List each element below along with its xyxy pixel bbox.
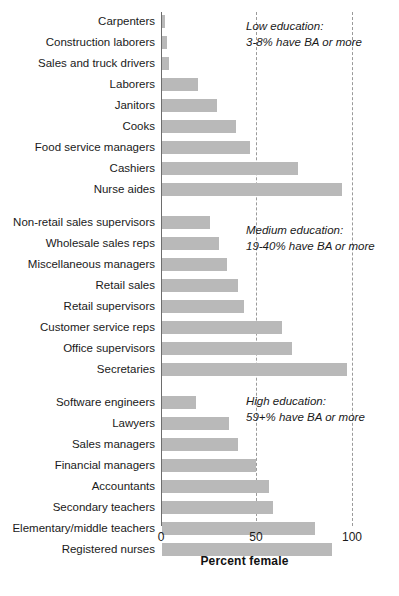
bar — [162, 141, 250, 154]
bar-track — [162, 363, 353, 376]
bar — [162, 321, 282, 334]
bar — [162, 417, 229, 430]
annotation-low-education: Low education: 3-8% have BA or more — [246, 18, 362, 50]
bar-row-label: Construction laborers — [0, 35, 155, 50]
bar-row-label: Retail supervisors — [0, 299, 155, 314]
bar-row-label: Lawyers — [0, 416, 155, 431]
bar-track — [162, 300, 353, 313]
bar-row-label: Miscellaneous managers — [0, 257, 155, 272]
bar — [162, 459, 256, 472]
bar-track — [162, 438, 353, 451]
bar — [162, 300, 244, 313]
bar-track — [162, 258, 353, 271]
bar-row: Retail supervisors — [0, 297, 399, 316]
bar-row: Cashiers — [0, 159, 399, 178]
bar-track — [162, 342, 353, 355]
bar — [162, 162, 298, 175]
x-axis: 0 50 100 Percent female — [0, 526, 399, 566]
bar-row: Sales managers — [0, 435, 399, 454]
bar — [162, 258, 227, 271]
bar — [162, 237, 219, 250]
bar — [162, 183, 342, 196]
bar-row-label: Nurse aides — [0, 182, 155, 197]
annotation-medium-line2: 19-40% have BA or more — [246, 238, 375, 254]
bar-track — [162, 321, 353, 334]
bar — [162, 36, 167, 49]
bar-row: Cooks — [0, 117, 399, 136]
bar-track — [162, 459, 353, 472]
bar — [162, 342, 292, 355]
annotation-medium-education: Medium education: 19-40% have BA or more — [246, 222, 375, 254]
bar-row-label: Customer service reps — [0, 320, 155, 335]
x-tick-0: 0 — [158, 530, 165, 544]
bar-row-label: Food service managers — [0, 140, 155, 155]
bar-row-label: Office supervisors — [0, 341, 155, 356]
bar-row-label: Janitors — [0, 98, 155, 113]
x-axis-title: Percent female — [0, 554, 399, 568]
bar-row-label: Laborers — [0, 77, 155, 92]
bar-track — [162, 183, 353, 196]
bar-row-label: Carpenters — [0, 14, 155, 29]
bar-row: Secretaries — [0, 360, 399, 379]
bar-track — [162, 480, 353, 493]
bar-row-label: Cashiers — [0, 161, 155, 176]
annotation-medium-line1: Medium education: — [246, 224, 343, 236]
x-axis-title-text: Percent female — [200, 554, 288, 568]
bar-row: Accountants — [0, 477, 399, 496]
bar-track — [162, 501, 353, 514]
bar-track — [162, 120, 353, 133]
bar-row-label: Sales managers — [0, 437, 155, 452]
bar-row: Miscellaneous managers — [0, 255, 399, 274]
bar-row-label: Cooks — [0, 119, 155, 134]
bar — [162, 99, 217, 112]
bar-track — [162, 279, 353, 292]
bar-row-label: Accountants — [0, 479, 155, 494]
bar — [162, 216, 210, 229]
bar — [162, 15, 165, 28]
bar-row: Food service managers — [0, 138, 399, 157]
bar — [162, 120, 236, 133]
bar-row-label: Financial managers — [0, 458, 155, 473]
bar-row: Customer service reps — [0, 318, 399, 337]
bar-row-label: Non-retail sales supervisors — [0, 215, 155, 230]
annotation-low-line1: Low education: — [246, 20, 323, 32]
bar-track — [162, 99, 353, 112]
bar-track — [162, 57, 353, 70]
bar-track — [162, 78, 353, 91]
x-tick-50: 50 — [249, 530, 262, 544]
bar-row: Secondary teachers — [0, 498, 399, 517]
bar — [162, 363, 347, 376]
annotation-high-line1: High education: — [246, 395, 326, 407]
bar — [162, 438, 238, 451]
annotation-high-line2: 59+% have BA or more — [246, 409, 365, 425]
bar-track — [162, 141, 353, 154]
bar-row: Janitors — [0, 96, 399, 115]
x-tick-100: 100 — [342, 530, 362, 544]
annotation-low-line2: 3-8% have BA or more — [246, 34, 362, 50]
bar-row: Office supervisors — [0, 339, 399, 358]
bar-row-label: Secondary teachers — [0, 500, 155, 515]
bar-row-label: Sales and truck drivers — [0, 56, 155, 71]
bar — [162, 501, 273, 514]
bar — [162, 279, 238, 292]
bar-row: Nurse aides — [0, 180, 399, 199]
bar-row: Laborers — [0, 75, 399, 94]
annotation-high-education: High education: 59+% have BA or more — [246, 393, 365, 425]
bar-chart: CarpentersConstruction laborersSales and… — [0, 0, 399, 596]
bar-row-label: Retail sales — [0, 278, 155, 293]
bar-row: Financial managers — [0, 456, 399, 475]
bar-row-label: Secretaries — [0, 362, 155, 377]
bar — [162, 57, 169, 70]
bar-track — [162, 162, 353, 175]
bar-row-label: Wholesale sales reps — [0, 236, 155, 251]
bar — [162, 78, 198, 91]
bar-row: Retail sales — [0, 276, 399, 295]
bar — [162, 396, 196, 409]
bar-row-label: Software engineers — [0, 395, 155, 410]
bar-rows-container: CarpentersConstruction laborersSales and… — [0, 12, 399, 561]
bar-row: Sales and truck drivers — [0, 54, 399, 73]
bar — [162, 480, 269, 493]
